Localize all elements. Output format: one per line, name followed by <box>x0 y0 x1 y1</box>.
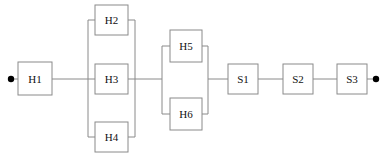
block-s1-label: S1 <box>237 73 249 85</box>
block-h6[interactable]: H6 <box>170 98 202 130</box>
block-h2-label: H2 <box>105 14 118 26</box>
block-s3-label: S3 <box>346 73 358 85</box>
block-h2[interactable]: H2 <box>95 5 128 35</box>
block-s1[interactable]: S1 <box>228 64 258 94</box>
input-terminal <box>8 76 14 82</box>
block-h5[interactable]: H5 <box>170 30 202 62</box>
block-s2[interactable]: S2 <box>283 64 313 94</box>
block-s3[interactable]: S3 <box>337 64 367 94</box>
block-h4[interactable]: H4 <box>95 122 128 152</box>
block-h5-label: H5 <box>179 40 193 52</box>
block-h3[interactable]: H3 <box>95 64 128 94</box>
block-h1[interactable]: H1 <box>18 62 52 95</box>
block-h3-label: H3 <box>105 73 119 85</box>
block-h4-label: H4 <box>105 131 119 143</box>
reliability-block-diagram: H1 H2 H3 H4 H5 H6 <box>0 0 388 163</box>
diagram-canvas: H1 H2 H3 H4 H5 H6 <box>0 0 388 163</box>
block-h6-label: H6 <box>179 108 193 120</box>
block-h1-label: H1 <box>28 73 41 85</box>
output-terminal <box>373 76 379 82</box>
block-s2-label: S2 <box>292 73 304 85</box>
